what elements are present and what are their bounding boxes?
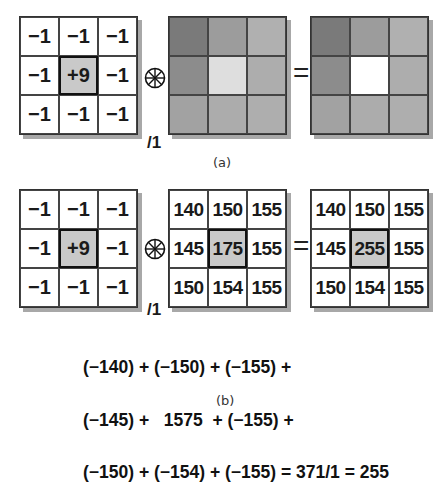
pixel-cell [169,17,208,56]
equals-sign-b: = [293,230,309,262]
kernel-cell: −1 [59,190,98,229]
caption-a: (a) [213,155,231,170]
value-cell: 155 [389,190,428,229]
pixel-cell [247,17,286,56]
kernel-cell: −1 [20,56,59,95]
kernel-cell: −1 [98,190,137,229]
kernel-cell: −1 [59,268,98,307]
value-cell: 155 [389,268,428,307]
kernel-grid-b: −1 −1 −1 −1 +9 −1 −1 −1 −1 [19,189,138,308]
pixel-cell [247,95,286,134]
kernel-cell: −1 [98,268,137,307]
kernel-cell: −1 [59,17,98,56]
center-value-cell: 175 [208,229,247,268]
kernel-center-cell: +9 [59,229,98,268]
kernel-cell: −1 [98,95,137,134]
kernel-cell: −1 [20,95,59,134]
value-cell: 155 [247,190,286,229]
pixel-cell [208,17,247,56]
convolution-icon [144,238,166,260]
pixel-cell [169,95,208,134]
kernel-center-cell: +9 [59,56,98,95]
pixel-cell [389,95,428,134]
value-cell: 140 [311,190,350,229]
pixel-cell [311,56,350,95]
value-cell: 150 [169,268,208,307]
value-cell: 150 [311,268,350,307]
divisor-label-b: /1 [147,300,161,320]
pixel-cell [169,56,208,95]
kernel-cell: −1 [98,17,137,56]
equals-sign-a: = [293,57,309,89]
pixel-cell [350,56,389,95]
pixel-cell [208,95,247,134]
input-image-grid-a [168,16,287,135]
pixel-cell [208,56,247,95]
value-cell: 145 [311,229,350,268]
value-cell: 155 [247,229,286,268]
kernel-cell: −1 [98,56,137,95]
value-cell: 140 [169,190,208,229]
kernel-grid-a: −1 −1 −1 −1 +9 −1 −1 −1 −1 [19,16,138,135]
pixel-cell [389,56,428,95]
output-image-grid-a [310,16,429,135]
convolution-formula: (−140) + (−150) + (−155) + (−145) + 1575… [83,324,389,486]
value-cell: 150 [208,190,247,229]
formula-line-2: (−145) + 1575 + (−155) + [83,412,389,430]
input-values-grid-b: 140 150 155 145 175 155 150 154 155 [168,189,287,308]
kernel-cell: −1 [20,229,59,268]
center-value-cell: 255 [350,229,389,268]
value-cell: 154 [350,268,389,307]
kernel-cell: −1 [98,229,137,268]
convolution-icon [144,67,166,89]
pixel-cell [311,17,350,56]
formula-line-3: (−150) + (−154) + (−155) = 371/1 = 255 [83,464,389,482]
kernel-cell: −1 [20,268,59,307]
output-values-grid-b: 140 150 155 145 255 155 150 154 155 [310,189,429,308]
value-cell: 154 [208,268,247,307]
pixel-cell [311,95,350,134]
pixel-cell [350,95,389,134]
value-cell: 150 [350,190,389,229]
kernel-cell: −1 [20,17,59,56]
pixel-cell [389,17,428,56]
value-cell: 145 [169,229,208,268]
divisor-label-a: /1 [147,133,161,153]
value-cell: 155 [389,229,428,268]
kernel-cell: −1 [59,95,98,134]
formula-line-1: (−140) + (−150) + (−155) + [83,359,389,377]
caption-b: (b) [216,393,234,408]
pixel-cell [247,56,286,95]
value-cell: 155 [247,268,286,307]
pixel-cell [350,17,389,56]
kernel-cell: −1 [20,190,59,229]
